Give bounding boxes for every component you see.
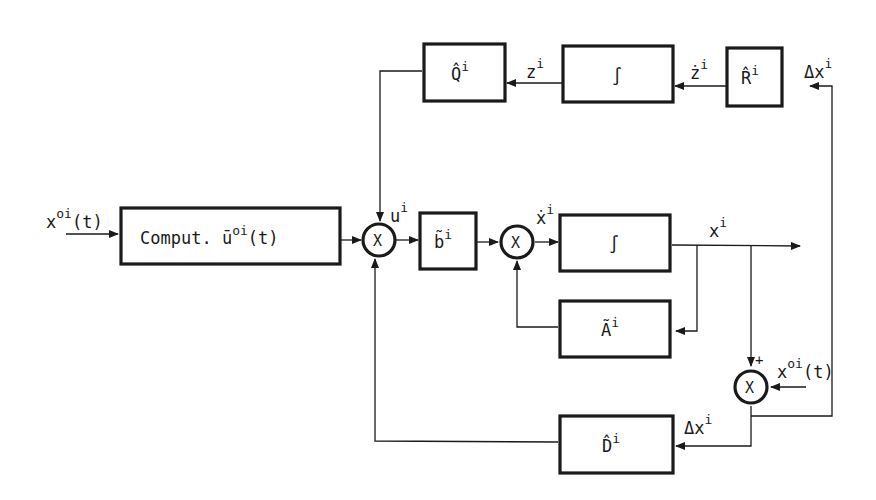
block-comput: Comput. ūoi(t)	[121, 208, 340, 264]
junction-3-plus-sign: +	[755, 352, 763, 368]
junction-2-label: X	[511, 234, 520, 252]
signal-u-label: ui	[390, 200, 408, 226]
wire-A-to-j2	[517, 261, 558, 327]
signal-dx-bottom-label: Δxi	[684, 412, 712, 438]
block-D: D̂i	[560, 416, 673, 473]
junction-1-label: X	[373, 232, 382, 250]
block-integrator-1: ∫	[560, 215, 670, 271]
wire-Q-to-j1	[380, 71, 422, 221]
wire-x-output	[672, 245, 800, 246]
signal-dx-top-label: Δxi	[804, 56, 832, 82]
integrator-1-label: ∫	[609, 234, 619, 254]
signal-input-label: xoi(t)	[46, 206, 103, 232]
integrator-2-label: ∫	[612, 66, 622, 86]
signal-zdot-label: żi	[690, 57, 708, 83]
signal-z-label: zi	[526, 56, 544, 82]
block-A: Ãi	[560, 301, 670, 357]
wire-D-to-j1	[375, 259, 558, 442]
junction-2: X	[501, 226, 533, 258]
block-diagram: Comput. ūoi(t) b̃i ∫ Ãi Q̂i ∫ R̂i D̂i X …	[0, 0, 876, 500]
block-R: R̂i	[727, 48, 782, 106]
signal-xdot-label: ẋi	[536, 202, 554, 228]
block-Q: Q̂i	[424, 44, 505, 101]
signal-ref-label: xoi(t)	[777, 356, 834, 382]
block-b: b̃i	[420, 213, 476, 269]
diagram-canvas: Comput. ūoi(t) b̃i ∫ Ãi Q̂i ∫ R̂i D̂i X …	[0, 0, 876, 500]
signal-x-label: xi	[709, 215, 727, 241]
wire-x-to-A	[676, 245, 697, 331]
block-integrator-2: ∫	[563, 46, 673, 102]
junction-1: X	[363, 224, 395, 256]
junction-3-label: X	[745, 379, 754, 397]
